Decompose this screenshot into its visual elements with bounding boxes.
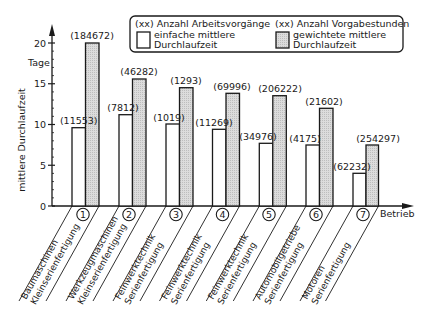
y-tick-0: 0 [40,201,46,212]
bar-simple-7 [353,173,366,206]
svg-text:3: 3 [173,209,179,220]
annotation-simple-3: (1019) [153,112,185,123]
svg-text:6: 6 [313,209,319,220]
annotation-weighted-1: (184672) [70,30,114,41]
bar-weighted-2 [133,79,147,206]
category-number-2: 2 [123,208,135,220]
bar-simple-1 [72,128,86,206]
svg-text:2: 2 [126,209,132,220]
y-axis: 0 5 10 15 20 Tage mittlere Durchlaufzeit [16,24,55,212]
bar-simple-6 [306,145,320,206]
svg-text:1: 1 [80,209,86,220]
y-tick-15: 15 [34,78,46,89]
chart: (xx) Anzahl Arbeitsvorgänge einfache mit… [0,0,426,321]
category-number-7: 7 [357,208,369,220]
bar-weighted-4 [226,93,240,206]
svg-text:4: 4 [219,209,225,220]
legend-swatch-weighted [276,32,289,48]
y-unit-label: Tage [27,57,50,68]
annotation-simple-5: (34976) [239,131,277,142]
legend-right-line2: Durchlaufzeit [293,39,357,50]
bar-simple-2 [119,115,133,206]
y-axis-arrow-icon [49,24,55,36]
category-number-3: 3 [170,208,182,220]
svg-text:5: 5 [266,209,272,220]
bar-weighted-7 [366,145,379,206]
y-tick-20: 20 [34,38,46,49]
bar-simple-5 [259,143,273,206]
legend-left-header: (xx) Anzahl Arbeitsvorgänge [135,18,270,29]
category-label-7: Motoren Serienfertigung [300,235,352,306]
bar-weighted-5 [273,96,287,206]
annotation-simple-2: (7812) [107,102,139,113]
legend-swatch-simple [137,32,150,48]
annotation-simple-6: (4175) [289,133,321,144]
category-number-1: 1 [77,208,89,220]
legend: (xx) Anzahl Arbeitsvorgänge einfache mit… [130,16,409,52]
annotation-simple-1: (11553) [60,115,98,126]
annotation-weighted-2: (46282) [120,66,158,77]
bar-simple-3 [166,124,180,206]
y-tick-5: 5 [40,160,46,171]
y-axis-title: mittlere Durchlaufzeit [16,88,27,192]
category-number-4: 4 [216,208,228,220]
legend-right-header: (xx) Anzahl Vorgabestunden [275,18,409,29]
bar-simple-4 [213,129,227,206]
annotation-weighted-3: (1293) [170,75,202,86]
category-label-5: Feinwerktechnik Serienfertigung [206,231,260,306]
bar-weighted-3 [180,88,194,206]
annotation-simple-7: (62232) [333,161,371,172]
annotation-weighted-5: (206222) [258,83,302,94]
legend-left-line2: Durchlaufzeit [154,39,218,50]
bar-weighted-6 [320,108,334,206]
svg-text:7: 7 [360,209,366,220]
category-number-6: 6 [310,208,322,220]
x-axis-title: Betrieb [380,208,415,219]
category-number-5: 5 [263,208,275,220]
annotation-weighted-4: (69996) [213,81,251,92]
annotation-weighted-6: (21602) [305,96,343,107]
annotation-weighted-7: (254297) [356,133,400,144]
y-tick-10: 10 [34,119,46,130]
annotation-simple-4: (11269) [195,117,233,128]
